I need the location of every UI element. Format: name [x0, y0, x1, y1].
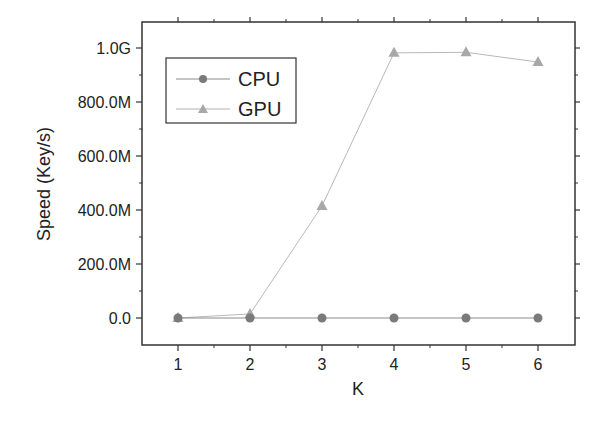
x-tick-label: 1: [174, 356, 183, 373]
y-tick-label: 600.0M: [78, 148, 131, 165]
triangle-marker-icon: [461, 46, 472, 56]
circle-marker-icon: [318, 314, 327, 323]
triangle-marker-icon: [389, 47, 400, 57]
y-tick-label: 400.0M: [78, 202, 131, 219]
y-tick-label: 1.0G: [96, 40, 131, 57]
y-tick-label: 0.0: [109, 310, 131, 327]
triangle-marker-icon: [317, 200, 328, 210]
x-axis-title: K: [352, 379, 364, 399]
x-tick-label: 4: [390, 356, 399, 373]
circle-marker-icon: [390, 314, 399, 323]
x-tick-label: 5: [462, 356, 471, 373]
x-tick-label: 2: [246, 356, 255, 373]
y-axis: 0.0200.0M400.0M600.0M800.0M1.0G: [78, 40, 580, 327]
circle-marker-icon: [174, 314, 183, 323]
x-tick-label: 3: [318, 356, 327, 373]
x-tick-label: 6: [534, 356, 543, 373]
y-axis-title: Speed (Key/s): [34, 127, 54, 241]
circle-marker-icon: [246, 314, 255, 323]
y-tick-label: 800.0M: [78, 94, 131, 111]
legend-label-gpu: GPU: [238, 98, 281, 120]
legend: CPU GPU: [166, 58, 296, 123]
circle-marker-icon: [462, 314, 471, 323]
chart: 0.0200.0M400.0M600.0M800.0M1.0G 123456 K…: [0, 0, 606, 425]
circle-marker-icon: [534, 314, 543, 323]
legend-label-cpu: CPU: [238, 68, 280, 90]
y-tick-label: 200.0M: [78, 256, 131, 273]
circle-marker-icon: [199, 75, 207, 83]
